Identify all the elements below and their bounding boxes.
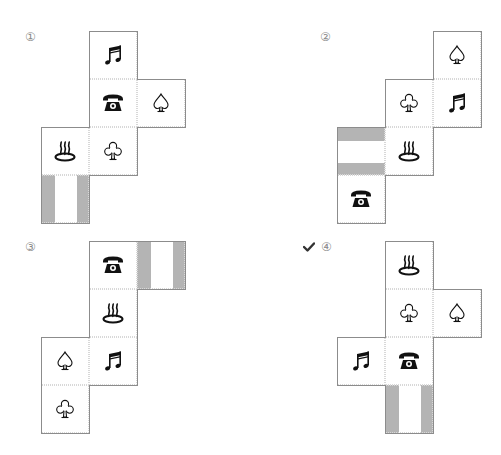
net-outline-edge: [385, 385, 386, 434]
net-outline-edge: [385, 289, 386, 338]
net-outline-edge: [433, 289, 482, 290]
net-outline-edge: [385, 241, 434, 242]
club-icon: [397, 301, 421, 325]
net-outline-edge: [433, 337, 434, 386]
hot-spring-icon: [397, 253, 421, 277]
music-note-icon: [349, 349, 373, 373]
spade-icon: [445, 301, 469, 325]
cube-net-option-4[interactable]: [0, 0, 501, 455]
face-stripes-vertical: [385, 385, 433, 433]
net-outline-edge: [385, 241, 386, 290]
telephone-icon: [397, 349, 421, 373]
face-hot-spring: [385, 241, 433, 289]
face-spade: [433, 289, 481, 337]
net-outline-edge: [433, 241, 434, 290]
net-outline-edge: [337, 337, 338, 386]
net-outline-edge: [433, 385, 434, 434]
net-outline-edge: [337, 385, 386, 386]
net-outline-edge: [385, 433, 434, 434]
face-music: [337, 337, 385, 385]
face-club: [385, 289, 433, 337]
net-outline-edge: [433, 337, 482, 338]
face-phone: [385, 337, 433, 385]
net-outline-edge: [481, 289, 482, 338]
net-outline-edge: [337, 337, 386, 338]
